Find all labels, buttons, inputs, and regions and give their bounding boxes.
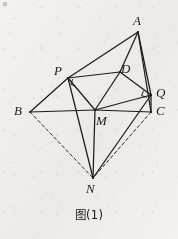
vertex-dot-C: [150, 111, 152, 113]
vertex-label-N: N: [86, 182, 95, 195]
right-angle-mark-P: [71, 79, 76, 86]
solid-edges: [30, 32, 151, 178]
vertex-dot-B: [29, 111, 31, 113]
edge-B-N: [30, 112, 93, 178]
edge-M-N: [93, 110, 95, 178]
vertex-label-M: M: [96, 114, 107, 127]
geometry-canvas: [0, 0, 178, 239]
vertex-label-P: P: [54, 64, 62, 77]
figure-caption: 图(1): [0, 206, 178, 222]
edge-A-C: [138, 32, 151, 112]
vertex-dot-A: [137, 31, 139, 33]
vertex-label-Q: Q: [156, 86, 165, 99]
edge-M-C: [95, 110, 151, 112]
geometry-figure: A P D Q B C M N 图(1): [0, 0, 178, 239]
edge-B-M: [30, 110, 95, 112]
vertex-dot-N: [92, 177, 94, 179]
vertex-label-A: A: [133, 14, 141, 27]
vertex-label-B: B: [14, 104, 22, 117]
vertex-dot-Q: [150, 94, 152, 96]
vertex-dot-P: [67, 77, 69, 79]
vertex-dot-M: [94, 109, 96, 111]
edge-Q-N: [93, 95, 151, 178]
edge-P-B: [30, 78, 68, 112]
vertex-label-C: C: [156, 104, 165, 117]
vertex-label-D: D: [121, 62, 130, 75]
